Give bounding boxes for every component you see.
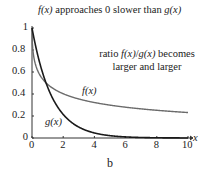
- x-tick-label: 2: [60, 140, 65, 151]
- x-axis-label: x: [193, 133, 198, 144]
- y-tick-label: 1: [23, 22, 28, 33]
- g-series-label: g(x): [45, 117, 62, 128]
- x-tick-label: 4: [91, 140, 96, 151]
- chart-title: f(x) approaches 0 slower than g(x): [38, 5, 181, 16]
- y-tick-label: 0.8: [12, 44, 25, 55]
- x-tick-label: 10: [182, 140, 193, 151]
- f-series-label: f(x): [82, 86, 97, 97]
- x-tick-label: 0: [29, 140, 34, 151]
- annotation: ratio f(x)/g(x) becomeslarger and larger: [92, 47, 202, 73]
- y-tick-label: 0: [23, 132, 28, 143]
- x-tick-label: 8: [154, 140, 159, 151]
- panel-label: b: [107, 157, 113, 169]
- x-tick-label: 6: [123, 140, 128, 151]
- y-tick-label: 0.4: [12, 88, 25, 99]
- y-tick-label: 0.6: [12, 66, 25, 77]
- y-tick-label: 0.2: [12, 110, 25, 121]
